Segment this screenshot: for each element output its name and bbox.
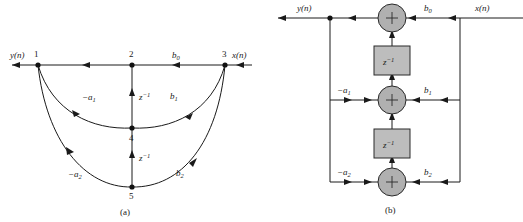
panel-a-input-label: x(n) [231, 50, 247, 60]
arrowhead-rail-b0 [172, 62, 180, 68]
panel-b-b0-label: b0 [424, 3, 433, 14]
panel-a-node-3-label: 3 [222, 49, 227, 59]
panel-a-a2-label: −a2 [68, 169, 83, 180]
arrowhead-rail-left [82, 62, 90, 68]
panel-a-node-4-label: 4 [129, 133, 134, 143]
panel-a-node-1-label: 1 [34, 49, 39, 59]
panel-b-branch-dot [327, 15, 332, 20]
panel-b: z−1 z−1 y(n) x(n) b0 −a1 b1 −a2 b2 [278, 3, 523, 215]
arrowhead-b-a2-in [364, 179, 372, 185]
arrowhead-b-b1-in [412, 97, 420, 103]
figure-svg: y(n) 1 2 3 4 5 x(n) b0 −a1 −a2 b1 b2 z−1… [0, 0, 523, 222]
panel-a-delay1-label: z−1 [138, 91, 150, 102]
arrowhead-x-in [236, 62, 244, 68]
panel-a-b1-label: b1 [170, 91, 178, 102]
panel-b-b1-label: b1 [424, 85, 432, 96]
arrowhead-b-b0-in [448, 15, 456, 21]
panel-a-node-1-dot [35, 62, 40, 67]
arrowhead-b2 [189, 158, 197, 167]
panel-b-a1-label: −a1 [337, 85, 351, 96]
arrowhead-b-a1-in [364, 97, 372, 103]
arrowhead-delay1-up [129, 88, 135, 96]
arrowhead-b-b1-mid [440, 97, 448, 103]
panel-a-b2-label: b2 [176, 168, 185, 179]
branch-a2-curve [38, 65, 132, 187]
arrowhead-b1 [185, 113, 193, 120]
figure-root: y(n) 1 2 3 4 5 x(n) b0 −a1 −a2 b1 b2 z−1… [0, 0, 523, 222]
arrowhead-a1 [72, 110, 80, 117]
panel-a-a1-label: −a1 [82, 92, 96, 103]
arrowhead-b-b2-in [412, 179, 420, 185]
arrowhead-y-out [12, 62, 20, 68]
panel-a-output-label: y(n) [9, 50, 25, 60]
arrowhead-b-a1-mid [344, 97, 352, 103]
panel-b-a2-label: −a2 [337, 167, 352, 178]
panel-a-node-4-dot [129, 125, 134, 130]
arrowhead-b-y-out [278, 15, 286, 21]
panel-a-delay2-label: z−1 [138, 152, 150, 163]
panel-a-caption: (a) [120, 207, 130, 217]
panel-a-node-2-label: 2 [129, 49, 134, 59]
arrowhead-delay2-up [129, 150, 135, 158]
panel-a-node-2-dot [129, 62, 134, 67]
arrowhead-b-top-left [348, 15, 356, 21]
panel-b-b2-label: b2 [424, 167, 433, 178]
panel-a-node-5-label: 5 [129, 191, 134, 201]
panel-b-caption: (b) [385, 205, 396, 215]
arrowhead-b-a2-mid [344, 179, 352, 185]
panel-a-b0-label: b0 [172, 50, 181, 61]
arrowhead-b-top-right-in [408, 15, 416, 21]
panel-b-output-label: y(n) [296, 3, 312, 13]
panel-a: y(n) 1 2 3 4 5 x(n) b0 −a1 −a2 b1 b2 z−1… [9, 49, 252, 217]
panel-a-node-5-dot [129, 184, 134, 189]
panel-b-input-label: x(n) [474, 3, 490, 13]
arrowhead-b-b2-mid [440, 179, 448, 185]
panel-a-node-3-dot [222, 62, 227, 67]
